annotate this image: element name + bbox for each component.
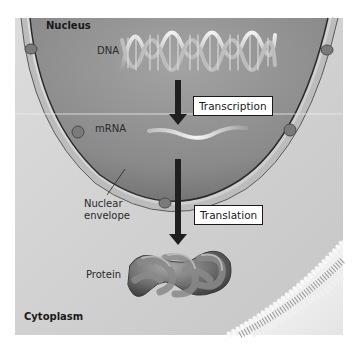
mrna-label: mRNA <box>95 123 126 135</box>
diagram-canvas <box>0 0 356 347</box>
transcription-label: Transcription <box>193 96 273 116</box>
translation-label: Translation <box>194 205 263 225</box>
dna-label: DNA <box>97 45 119 57</box>
nucleus-label: Nucleus <box>46 20 91 32</box>
central-dogma-diagram: Nucleus DNA Transcription mRNA Nuclear e… <box>0 0 356 347</box>
nuclear-envelope-label-line1: Nuclear <box>84 198 123 210</box>
cytoplasm-label: Cytoplasm <box>24 311 83 323</box>
nuclear-envelope-label-line2: envelope <box>84 210 130 222</box>
protein-label: Protein <box>86 269 121 281</box>
